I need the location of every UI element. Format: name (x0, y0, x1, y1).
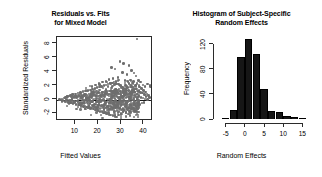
scatter-point (130, 69, 133, 72)
scatter-point (94, 84, 97, 87)
y-tick (209, 68, 213, 69)
scatter-point (133, 103, 135, 105)
scatter-point (138, 84, 140, 86)
y-axis-line (213, 44, 214, 120)
scatter-point (125, 115, 127, 117)
x-tick (283, 123, 284, 127)
scatter-point (137, 102, 139, 104)
scatter-point (127, 96, 129, 98)
scatter-point (128, 64, 131, 67)
scatter-point (135, 75, 138, 78)
scatter-point (135, 114, 137, 116)
x-tick-label: 15 (292, 130, 312, 137)
title-line-2: for Mixed Model (0, 19, 161, 28)
scatter-point (126, 73, 129, 76)
scatter-point (114, 97, 116, 99)
scatter-point (129, 84, 131, 86)
histogram-bar (230, 110, 238, 119)
title-line-1: Histogram of Subject-Specific (161, 10, 322, 19)
scatter-point (100, 104, 102, 106)
histogram-bar (260, 89, 268, 119)
y-tick-label: 6 (42, 50, 51, 64)
scatter-point (148, 96, 151, 99)
x-axis-title-fitted-values: Fitted Values (0, 152, 161, 159)
scatter-point (101, 117, 103, 119)
scatter-point (75, 108, 77, 110)
y-tick (209, 43, 213, 44)
y-tick-label: 2 (42, 78, 51, 92)
panel-random-effects-histogram: Histogram of Subject-Specific Random Eff… (161, 0, 322, 177)
scatter-point (135, 110, 137, 112)
scatter-point (128, 99, 130, 101)
x-tick-label: 40 (133, 127, 153, 134)
scatter-point (79, 108, 81, 110)
x-tick (142, 120, 143, 124)
scatter-point (88, 104, 90, 106)
y-tick-label: -2 (42, 105, 51, 119)
scatter-point (112, 77, 115, 80)
scatter-point (105, 107, 107, 109)
scatter-point (66, 105, 68, 107)
scatter-point (103, 94, 105, 96)
scatter-point (120, 102, 122, 104)
x-tick-label: -5 (216, 130, 236, 137)
scatter-point (99, 92, 101, 94)
scatter-point (121, 71, 124, 74)
x-tick (244, 123, 245, 127)
scatter-point (138, 89, 140, 91)
histogram-bar (283, 116, 291, 119)
scatter-point (110, 96, 112, 98)
scatter-point (120, 86, 122, 88)
scatter-point (100, 114, 102, 116)
scatter-point (128, 106, 130, 108)
scatter-point (83, 102, 85, 104)
scatter-point (133, 116, 135, 118)
scatter-point (133, 72, 136, 75)
scatter-point (119, 60, 122, 63)
scatter-point (92, 95, 94, 97)
histogram-bar (299, 118, 307, 119)
histogram-bar (253, 54, 261, 119)
scatter-point (101, 81, 104, 84)
title-line-2: Random Effects (161, 19, 322, 28)
panel-title-histogram: Histogram of Subject-Specific Random Eff… (161, 10, 322, 28)
scatter-point (137, 116, 139, 118)
scatter-point (77, 101, 79, 103)
y-tick-label: 0 (42, 92, 51, 106)
histogram-bar (291, 117, 299, 119)
scatter-point (104, 103, 106, 105)
scatter-point (107, 85, 109, 87)
scatter-point (125, 100, 127, 102)
scatter-point (115, 82, 117, 84)
y-axis-title-frequency: Frequency (183, 34, 190, 122)
scatter-point (110, 100, 112, 102)
scatter-point (73, 101, 75, 103)
y-tick-label: 4 (42, 64, 51, 78)
scatter-point (109, 82, 111, 84)
scatter-point (120, 117, 122, 119)
scatter-point (113, 95, 115, 97)
scatter-point (114, 114, 116, 116)
scatter-point (124, 93, 126, 95)
x-tick (225, 123, 226, 127)
scatter-point (129, 114, 131, 116)
x-tick (264, 123, 265, 127)
scatter-point (62, 99, 64, 101)
scatter-point (90, 114, 92, 116)
x-tick (97, 120, 98, 124)
scatter-point (144, 85, 147, 88)
x-tick-label: 0 (235, 130, 255, 137)
scatter-point (149, 84, 152, 87)
x-tick-label: 5 (254, 130, 274, 137)
scatter-point (92, 99, 94, 101)
x-tick (302, 123, 303, 127)
scatter-point (114, 68, 117, 71)
x-tick (74, 120, 75, 124)
scatter-point (102, 106, 104, 108)
scatter-point (125, 102, 127, 104)
x-axis-title-random-effects: Random Effects (161, 152, 322, 159)
scatter-point (139, 81, 142, 84)
x-tick-label: 30 (110, 127, 130, 134)
y-tick-label: 120 (198, 36, 207, 52)
scatter-point (121, 100, 123, 102)
